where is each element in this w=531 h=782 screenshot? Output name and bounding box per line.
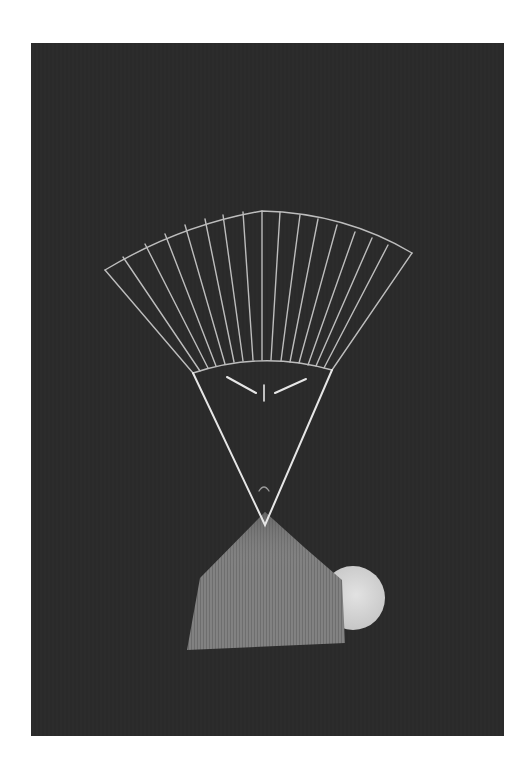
artwork-canvas	[0, 0, 531, 782]
